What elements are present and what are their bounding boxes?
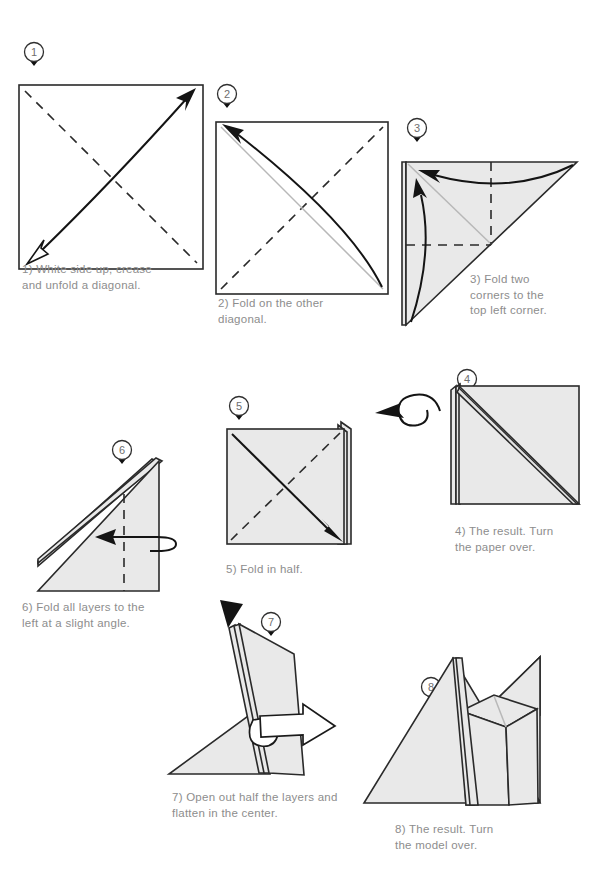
step-7-badge: 7 bbox=[262, 613, 281, 637]
svg-text:4: 4 bbox=[464, 373, 470, 385]
svg-text:6: 6 bbox=[119, 444, 125, 456]
step-1-caption: 1) White side up, crease and unfold a di… bbox=[22, 262, 202, 293]
step-4-diagram: 4 bbox=[370, 365, 610, 525]
step-2-diagram: 2 bbox=[200, 82, 400, 302]
svg-text:1: 1 bbox=[31, 46, 37, 58]
step-1-diagram: 1 bbox=[0, 40, 215, 265]
step-6-diagram: 6 bbox=[40, 432, 230, 597]
step-5-diagram: 5 bbox=[210, 392, 380, 567]
svg-text:7: 7 bbox=[268, 616, 274, 628]
step-2-badge: 2 bbox=[218, 85, 237, 109]
paper-prism-front-right bbox=[506, 709, 538, 805]
step-8-diagram: 8 bbox=[370, 655, 610, 820]
step-3-badge: 3 bbox=[408, 119, 427, 143]
step-5-caption: 5) Fold in half. bbox=[226, 562, 396, 578]
step-8-caption: 8) The result. Turn the model over. bbox=[395, 822, 555, 853]
step-6-caption: 6) Fold all layers to the left at a slig… bbox=[22, 600, 197, 631]
step-1-badge: 1 bbox=[25, 43, 44, 67]
step-5-badge: 5 bbox=[230, 397, 249, 421]
paper-triangle bbox=[38, 461, 159, 591]
step-6-badge: 6 bbox=[113, 441, 132, 465]
svg-text:3: 3 bbox=[414, 122, 420, 134]
turn-over-icon bbox=[375, 395, 440, 426]
svg-text:5: 5 bbox=[236, 400, 242, 412]
step-2-caption: 2) Fold on the other diagonal. bbox=[218, 296, 393, 327]
step-7-caption: 7) Open out half the layers and flatten … bbox=[172, 790, 382, 821]
step-4-caption: 4) The result. Turn the paper over. bbox=[455, 524, 605, 555]
instruction-sheet: 1 1) White side up, crease and unfold a … bbox=[0, 0, 610, 887]
step-3-caption: 3) Fold two corners to the top left corn… bbox=[470, 272, 580, 319]
svg-text:2: 2 bbox=[224, 88, 230, 100]
